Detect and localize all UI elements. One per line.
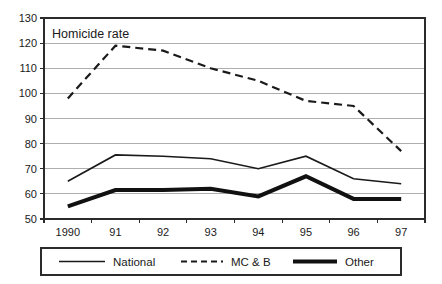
x-tick-label: 93 (205, 226, 217, 238)
x-tick-label: 1990 (56, 226, 80, 238)
y-tick-label: 70 (25, 163, 37, 175)
legend-label-2: Other (345, 256, 374, 268)
series-line-0 (68, 155, 401, 184)
x-axis-ticks: 199091929394959697 (44, 219, 425, 238)
x-tick-label: 92 (157, 226, 169, 238)
y-tick-label: 120 (19, 37, 37, 49)
y-tick-label: 110 (19, 62, 37, 74)
x-tick-label: 97 (395, 226, 407, 238)
series-line-2 (68, 176, 401, 206)
y-axis-ticks: 5060708090100110120130 (19, 12, 44, 225)
data-series (68, 46, 401, 207)
gridlines (44, 43, 425, 194)
y-tick-label: 100 (19, 87, 37, 99)
chart-canvas: 5060708090100110120130 19909192939495969… (0, 0, 442, 284)
chart-legend: NationalMC & BOther (41, 248, 401, 275)
x-tick-label: 91 (109, 226, 121, 238)
y-tick-label: 60 (25, 188, 37, 200)
legend-label-1: MC & B (231, 256, 271, 268)
x-tick-label: 95 (300, 226, 312, 238)
y-tick-label: 90 (25, 113, 37, 125)
x-tick-label: 96 (347, 226, 359, 238)
y-tick-label: 50 (25, 213, 37, 225)
chart-title: Homicide rate (52, 27, 129, 41)
homicide-rate-chart: 5060708090100110120130 19909192939495969… (0, 0, 442, 284)
y-tick-label: 80 (25, 138, 37, 150)
y-tick-label: 130 (19, 12, 37, 24)
x-tick-label: 94 (252, 226, 264, 238)
series-line-1 (68, 46, 401, 152)
legend-label-0: National (113, 256, 155, 268)
